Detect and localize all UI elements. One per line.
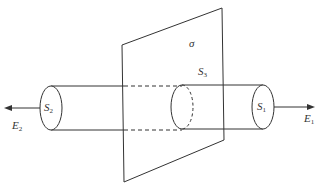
cross-section-back-arc <box>182 85 193 129</box>
surface-label-s3: S3 <box>198 66 207 79</box>
gauss-law-diagram: σ S3 S2 S1 E2 E1 <box>0 0 320 190</box>
cross-section-front-arc <box>171 85 182 129</box>
plane-label-sigma: σ <box>189 38 194 49</box>
field-label-e2: E2 <box>12 120 22 133</box>
arrowhead-left-icon <box>4 105 12 111</box>
field-label-e1: E1 <box>304 113 314 126</box>
diagram-drawing <box>0 0 320 190</box>
surface-label-s1: S1 <box>257 101 266 114</box>
arrowhead-right-icon <box>307 104 315 110</box>
surface-label-s2: S2 <box>44 102 53 115</box>
